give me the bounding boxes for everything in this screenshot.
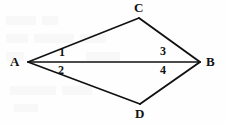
- edge-c-b: [139, 18, 200, 62]
- vertex-label-b: B: [206, 55, 215, 68]
- vertex-label-d: D: [135, 107, 144, 120]
- vertex-label-c: C: [134, 1, 143, 14]
- vertex-label-a: A: [10, 55, 19, 68]
- edge-a-c: [28, 18, 139, 62]
- edge-d-b: [140, 62, 200, 104]
- angle-label-4: 4: [160, 64, 166, 76]
- figure-line-art: [0, 0, 226, 125]
- geometry-figure: A C B D 1 2 3 4: [0, 0, 226, 125]
- angle-label-2: 2: [58, 64, 64, 76]
- edge-a-d: [28, 62, 140, 104]
- angle-label-1: 1: [59, 46, 65, 58]
- angle-label-3: 3: [160, 45, 166, 57]
